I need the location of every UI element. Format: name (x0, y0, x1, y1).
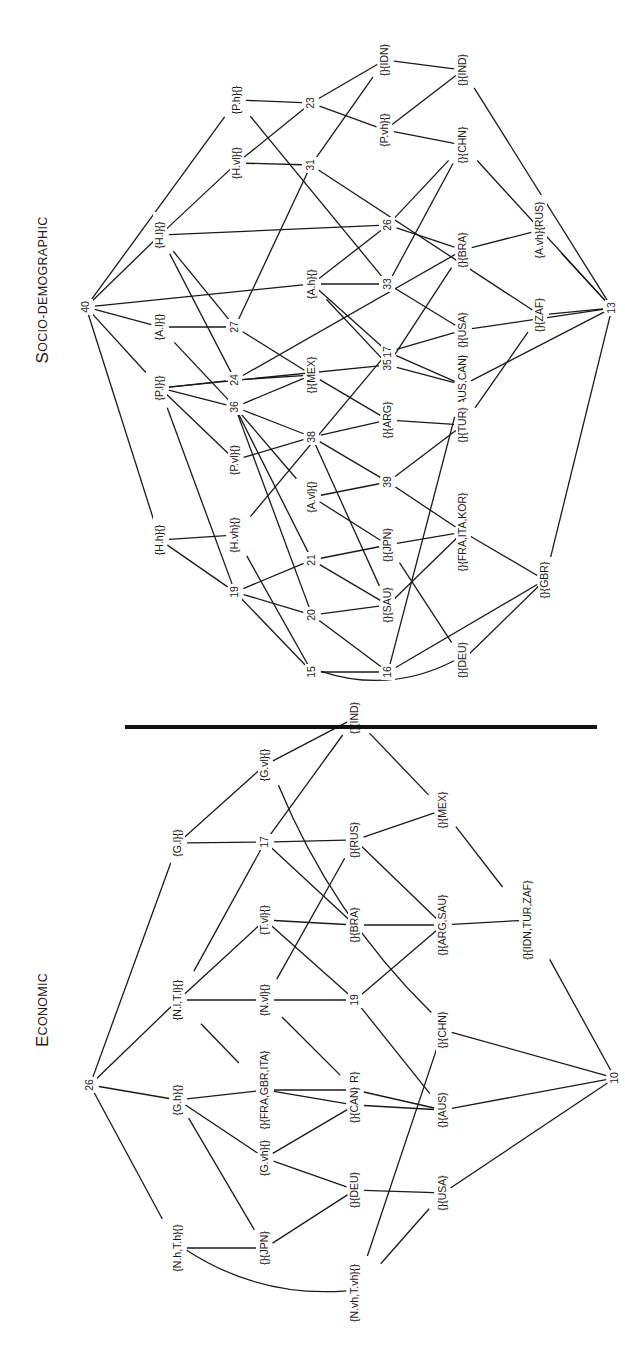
lattice-edge (93, 1090, 162, 1219)
concept-label-node: {H.h}{} (153, 524, 165, 555)
lattice-edge (397, 421, 454, 425)
lattice-edge (246, 100, 302, 102)
concept-count-node: 38 (305, 431, 317, 443)
lattice-edge (469, 586, 538, 653)
lattice-edge (321, 606, 379, 614)
lattice-diagrams-canvas: 40{P.h}{}{H.vl}{}{H.l}{}{A.l}{}23312724{… (0, 0, 625, 1369)
concept-label-node: {}{DEU} (348, 1171, 360, 1208)
lattice-edge (169, 225, 379, 234)
lattice-edge (96, 1006, 171, 1078)
concept-count-node: 16 (381, 666, 393, 678)
lattice-edge (397, 228, 455, 247)
lattice-edge (189, 1118, 255, 1230)
lattice-edge (370, 733, 429, 795)
concept-count-node: 17 (258, 836, 270, 848)
lattice-edge (321, 547, 379, 559)
lattice-edge (320, 502, 381, 540)
lattice-edge (452, 921, 519, 925)
concept-label-node: {}{IDN,TUR,ZAF} (521, 880, 533, 960)
lattice-edge (187, 842, 256, 843)
lattice-edge (321, 422, 379, 435)
lattice-edge (359, 1005, 430, 1094)
lattice-edge (185, 771, 259, 837)
concept-label-node: {}{ARG,SAU} (436, 894, 448, 956)
concept-label-node: {}{MEX} (436, 791, 448, 828)
lattice-edge (170, 254, 233, 375)
lattice-edge (319, 65, 377, 99)
lattice-edge (187, 1091, 256, 1099)
lattice-edge (273, 1161, 346, 1187)
concept-label-node: {N.l,T.l}{} (171, 979, 183, 1020)
lattice-edge (450, 1083, 607, 1188)
concept-label-node: {N.h,T.h}{} (171, 1224, 183, 1272)
concept-label-node: {P.h}{} (230, 85, 242, 114)
concept-label-node: {A.vh}{RUS} (533, 201, 545, 259)
concept-label-node: {P.l}{} (153, 375, 165, 400)
concept-count-node: 40 (79, 301, 91, 313)
lattice-edge (167, 169, 231, 229)
lattice-edge (396, 356, 455, 382)
lattice-edge (95, 285, 303, 306)
lattice-edge (391, 268, 451, 360)
lattice-edge (472, 232, 532, 247)
concept-label-node: {H.l}{} (153, 221, 165, 248)
concept-label-node: {A.l}{} (153, 313, 165, 340)
concept-label-node: {}{DEU} (456, 641, 468, 678)
concept-count-node: 39 (381, 476, 393, 488)
concept-label-node: {}{JPN} (258, 1231, 270, 1265)
lattice-edge (394, 61, 454, 69)
lattice-edge (282, 1017, 340, 1075)
concept-label-node: {A.h}{} (305, 269, 317, 299)
concept-label-node: {}{TUR} (456, 407, 468, 443)
lattice-edge (173, 251, 231, 322)
lattice-edge (361, 846, 436, 918)
nodes-layer: 40{P.h}{}{H.vl}{}{H.l}{}{A.l}{}23312724{… (79, 37, 622, 1334)
concept-label-node: {}{SAU} (381, 587, 393, 623)
lattice-edge (452, 1080, 606, 1109)
lattice-edge (320, 442, 381, 478)
lattice-edge (394, 132, 454, 144)
lattice-edge (274, 1091, 346, 1103)
concept-label-node: {G.vh}{} (258, 1139, 270, 1176)
lattice-edge (238, 170, 309, 321)
lattice-edge (314, 77, 372, 160)
concept-label-node: {}{ARG} (381, 401, 393, 438)
concept-count-node: 24 (228, 374, 240, 386)
lattice-edge (397, 333, 455, 350)
lattice-edge (237, 413, 310, 610)
lattice-edge (269, 735, 343, 837)
lattice-edge (250, 116, 384, 279)
lattice-edge (397, 367, 455, 382)
lattice-edge (246, 163, 302, 165)
concept-label-node: {G.h}{} (171, 1084, 183, 1115)
lattice-edge (550, 959, 612, 1072)
concept-label-node: {P.vl}{} (228, 444, 240, 475)
lattice-edge (319, 106, 376, 127)
concept-count-node: 13 (605, 302, 617, 314)
lattice-edge (238, 412, 310, 554)
concept-count-node: 36 (228, 401, 240, 413)
concept-count-node: 26 (83, 1079, 95, 1091)
concept-count-node: 31 (304, 159, 316, 171)
concept-label-node: {A.vl}{} (305, 481, 317, 513)
concept-label-node: {}{RUS} (348, 821, 360, 858)
lattice-edge (395, 487, 455, 527)
lattice-edge (169, 366, 379, 387)
concept-label-node: {}{CHN} (436, 1011, 448, 1048)
concept-label-node: {}{IND} (456, 53, 468, 86)
lattice-edge (243, 378, 303, 403)
concept-label-node: {}{FRA,GBR,ITA} (258, 1050, 270, 1130)
concept-label-node: {}{IDN} (378, 43, 390, 76)
concept-label-node: {T.vl}{} (258, 905, 270, 935)
lattice-edge (273, 1110, 347, 1154)
lattice-edge (456, 827, 503, 887)
lattice-edge (167, 545, 227, 587)
lattice-edge (243, 254, 455, 375)
concept-label-node: {P.vh}{} (378, 113, 390, 147)
concept-label-node: {G.l}{} (171, 829, 183, 857)
lattice-edge (364, 1190, 434, 1192)
lattice-edge (244, 109, 304, 158)
lattice-edge (390, 417, 455, 666)
lattice-edge (399, 563, 451, 643)
concept-count-node: 10 (608, 1072, 620, 1084)
